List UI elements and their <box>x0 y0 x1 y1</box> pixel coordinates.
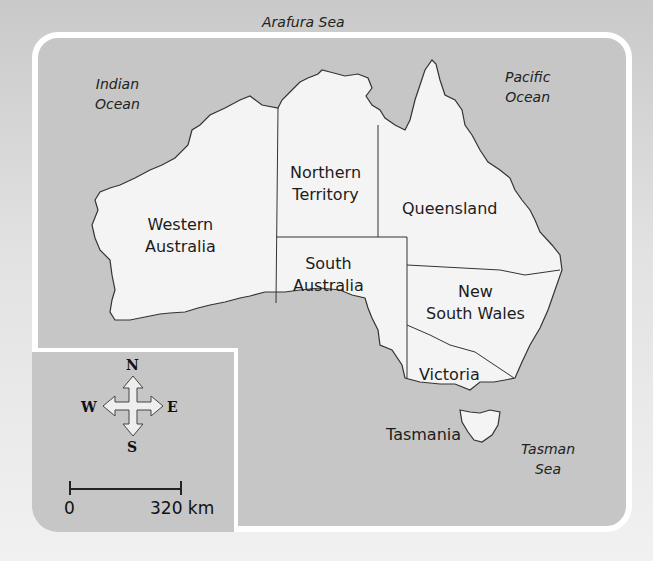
compass-rose-icon <box>100 373 166 439</box>
label-tasmania: Tasmania <box>386 424 461 446</box>
label-pacific-ocean: Pacific Ocean <box>505 67 550 107</box>
scale-tick-end <box>180 481 182 495</box>
label-western-australia: Western Australia <box>145 214 216 258</box>
scale-start-label: 0 <box>64 498 75 518</box>
compass-west: W <box>81 399 97 415</box>
scale-bar <box>70 488 181 490</box>
label-northern-territory: Northern Territory <box>290 162 361 206</box>
label-tasman-sea: Tasman Sea <box>521 439 575 479</box>
scale-tick-start <box>69 481 71 495</box>
label-new-south-wales: New South Wales <box>426 281 525 325</box>
tasmania-outline <box>460 410 500 442</box>
compass-north: N <box>126 357 139 373</box>
label-south-australia: South Australia <box>293 253 364 297</box>
compass-east: E <box>167 399 178 415</box>
label-indian-ocean: Indian Ocean <box>95 74 140 114</box>
compass-south: S <box>127 439 137 455</box>
label-victoria: Victoria <box>419 364 480 386</box>
label-arafura-sea: Arafura Sea <box>262 12 345 32</box>
label-queensland: Queensland <box>402 198 497 220</box>
scale-end-label: 320 km <box>150 498 214 518</box>
